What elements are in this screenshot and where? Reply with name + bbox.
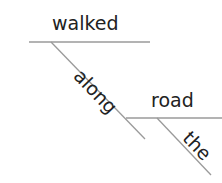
verb-word: walked	[52, 14, 119, 33]
object-word: road	[151, 91, 194, 110]
sentence-diagram: walked along road the	[0, 0, 222, 183]
